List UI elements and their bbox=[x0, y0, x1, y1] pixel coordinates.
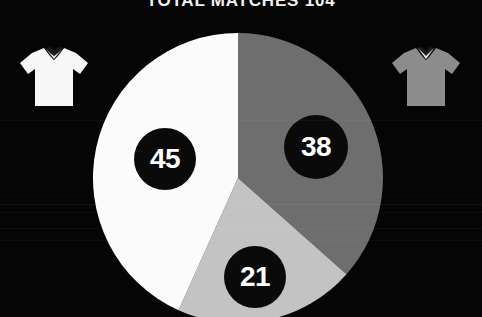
page-title: TOTAL MATCHES 104 bbox=[0, 0, 482, 11]
jersey-icon bbox=[390, 44, 462, 110]
pie-label-38: 38 bbox=[284, 115, 348, 179]
team-right-jersey bbox=[390, 44, 462, 110]
team-left-jersey bbox=[18, 44, 90, 110]
infographic-canvas: TOTAL MATCHES 104 45 38 21 bbox=[0, 0, 482, 317]
pie-label-21: 21 bbox=[224, 246, 286, 308]
pie-label-45: 45 bbox=[134, 128, 196, 190]
jersey-icon bbox=[18, 44, 90, 110]
